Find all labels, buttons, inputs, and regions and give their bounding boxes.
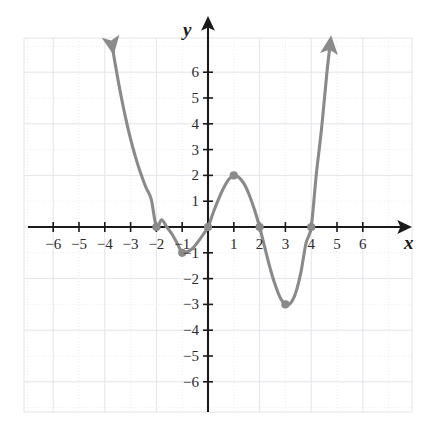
y-tick-label: 2 bbox=[192, 168, 200, 183]
marked-point bbox=[256, 223, 264, 231]
y-tick-label: 5 bbox=[192, 91, 200, 106]
y-tick-label: 6 bbox=[192, 65, 200, 80]
marked-point bbox=[204, 223, 212, 231]
x-tick-label: −5 bbox=[71, 237, 87, 252]
x-tick-label: −4 bbox=[97, 237, 113, 252]
marked-point bbox=[152, 223, 160, 231]
x-axis-label: x bbox=[404, 233, 414, 252]
x-tick-label: 5 bbox=[333, 237, 341, 252]
x-tick-label: 6 bbox=[359, 237, 367, 252]
x-tick-label: −6 bbox=[45, 237, 61, 252]
y-tick-label: 1 bbox=[192, 194, 200, 209]
graph-figure: y x −6−5−4−3−2−1123456 654321−1−2−3−4−5−… bbox=[0, 0, 436, 432]
y-tick-label: −5 bbox=[183, 349, 199, 364]
y-tick-label: 4 bbox=[192, 116, 200, 131]
x-tick-label: 3 bbox=[282, 237, 290, 252]
y-tick-label: −1 bbox=[183, 245, 199, 260]
y-tick-label: −3 bbox=[183, 297, 199, 312]
y-tick-label: −6 bbox=[183, 374, 199, 389]
marked-point bbox=[230, 171, 238, 179]
x-tick-label: 4 bbox=[307, 237, 315, 252]
marked-point bbox=[281, 300, 289, 308]
y-axis-label: y bbox=[183, 20, 191, 39]
x-tick-label: −3 bbox=[123, 237, 139, 252]
x-tick-label: 1 bbox=[230, 237, 238, 252]
marked-point bbox=[307, 223, 315, 231]
y-tick-label: −2 bbox=[183, 271, 199, 286]
x-tick-label: −2 bbox=[148, 237, 164, 252]
y-tick-label: 3 bbox=[192, 142, 200, 157]
y-tick-label: −4 bbox=[183, 323, 199, 338]
plot-background bbox=[0, 0, 436, 432]
coordinate-plane-svg bbox=[0, 0, 436, 432]
x-tick-label: 2 bbox=[256, 237, 264, 252]
